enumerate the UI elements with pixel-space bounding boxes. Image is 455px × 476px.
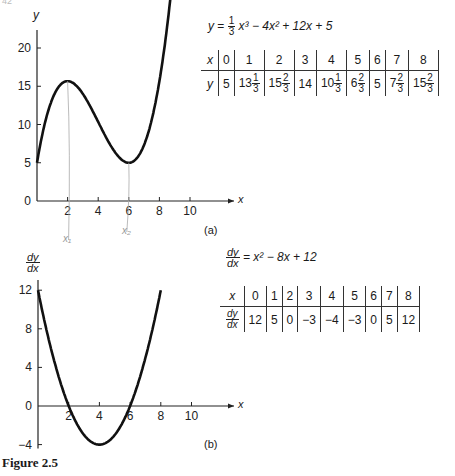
- table-a-x-cell: 8: [409, 50, 439, 71]
- svg-text:20: 20: [18, 41, 32, 55]
- table-a-y-cell: 723: [385, 71, 408, 97]
- annotation-x2: x₂: [122, 225, 131, 236]
- table-a-y-cell: 1313: [234, 71, 264, 97]
- table-a-y-cell: 5: [370, 71, 386, 97]
- equation-b-rest: = x² − 8x + 12: [243, 250, 317, 264]
- table-b-x-header: x: [220, 286, 244, 307]
- table-b-x-cell: 6: [366, 286, 382, 307]
- plot-a-x-axis-label: x: [238, 193, 244, 205]
- yh-den: dx: [226, 320, 239, 330]
- plot-b-axes: 246810−404812: [18, 280, 234, 452]
- svg-text:10: 10: [18, 118, 32, 132]
- svg-text:4: 4: [25, 360, 32, 374]
- svg-text:10: 10: [183, 204, 197, 218]
- table-a-y-cell: 1013: [316, 71, 346, 97]
- table-a-y-cell: 14: [294, 71, 316, 97]
- table-a-x-cell: 2: [264, 50, 294, 71]
- lhs-den: dx: [226, 258, 240, 268]
- table-b-y-cell: 5: [266, 307, 282, 333]
- equation-a-rest: x³ − 4x² + 12x + 5: [239, 19, 333, 33]
- table-a-x-cell: 0: [219, 50, 235, 71]
- table-b-y-cell: 12: [397, 307, 419, 333]
- svg-text:−4: −4: [18, 438, 32, 452]
- table-a-x-cell: 6: [370, 50, 386, 71]
- table-b-y-cell: 0: [366, 307, 382, 333]
- svg-text:12: 12: [19, 283, 33, 297]
- svg-text:2: 2: [64, 204, 71, 218]
- table-b-y-cell: 0: [282, 307, 298, 333]
- svg-text:5: 5: [24, 156, 31, 170]
- table-b-y-cell: −3: [343, 307, 366, 333]
- table-b-x-cell: 3: [298, 286, 321, 307]
- annotation-x1: x₁: [63, 233, 71, 244]
- table-b-x-cell: 7: [382, 286, 398, 307]
- table-b-x-cell: 0: [244, 286, 266, 307]
- table-b-x-cell: 8: [397, 286, 419, 307]
- table-a-y-header: y: [201, 71, 219, 97]
- table-a-y-cell: 623: [346, 71, 369, 97]
- svg-text:8: 8: [157, 409, 164, 423]
- svg-text:4: 4: [95, 204, 102, 218]
- svg-text:8: 8: [25, 322, 32, 336]
- table-a-x-cell: 3: [294, 50, 316, 71]
- table-b-y-cell: 12: [244, 307, 266, 333]
- coef-denominator: 3: [228, 27, 236, 37]
- svg-text:0: 0: [25, 399, 32, 413]
- table-b-x-cell: 4: [320, 286, 343, 307]
- plot-a-y-axis-label: y: [33, 8, 39, 22]
- table-a-x-row: x 012345678: [201, 50, 438, 71]
- table-a-x-cell: 1: [234, 50, 264, 71]
- table-a-y-cell: 5: [219, 71, 235, 97]
- equation-a: y = 1 3 x³ − 4x² + 12x + 5: [208, 16, 332, 37]
- table-b-x-row: x 012345678: [220, 286, 420, 307]
- table-b-x-cell: 1: [266, 286, 282, 307]
- figure-caption: Figure 2.5: [2, 455, 58, 471]
- y-label-den: dx: [26, 263, 40, 273]
- plot-b: 246810−404812: [0, 250, 250, 460]
- table-a-y-cell: 1523: [409, 71, 439, 97]
- table-a-x-cell: 5: [346, 50, 369, 71]
- plot-a-curve: [37, 0, 174, 163]
- equation-a-lhs: y: [208, 19, 214, 33]
- table-b-y-cell: 5: [382, 307, 398, 333]
- table-b-y-cell: −3: [298, 307, 321, 333]
- panel-a-label: (a): [204, 224, 217, 236]
- table-a-x-header: x: [201, 50, 219, 71]
- table-b-y-cell: −4: [320, 307, 343, 333]
- svg-text:4: 4: [96, 409, 103, 423]
- table-b-y-row: dy dx 1250−3−4−30512: [220, 307, 420, 333]
- svg-text:15: 15: [18, 79, 32, 93]
- equation-a-coefficient: 1 3: [228, 16, 236, 37]
- plot-b-x-axis-label: x: [238, 398, 244, 410]
- table-b-x-cell: 5: [343, 286, 366, 307]
- svg-text:8: 8: [156, 204, 163, 218]
- table-a-y-row: y 51313152314101362357231523: [201, 71, 438, 97]
- panel-b-label: (b): [204, 438, 217, 450]
- table-b-x-cell: 2: [282, 286, 298, 307]
- table-b: x 012345678 dy dx 1250−3−4−30512: [220, 286, 420, 332]
- equation-b: dy dx = x² − 8x + 12: [226, 247, 317, 268]
- table-a-x-cell: 7: [385, 50, 408, 71]
- table-b-y-header: dy dx: [220, 307, 244, 333]
- equation-b-lhs: dy dx: [226, 247, 240, 268]
- table-a-x-cell: 4: [316, 50, 346, 71]
- table-a: x 012345678 y 51313152314101362357231523: [201, 50, 439, 96]
- svg-text:0: 0: [24, 194, 31, 208]
- table-a-y-cell: 1523: [264, 71, 294, 97]
- svg-text:10: 10: [185, 409, 199, 423]
- svg-text:6: 6: [125, 204, 132, 218]
- plot-b-y-axis-label: dy dx: [26, 252, 40, 273]
